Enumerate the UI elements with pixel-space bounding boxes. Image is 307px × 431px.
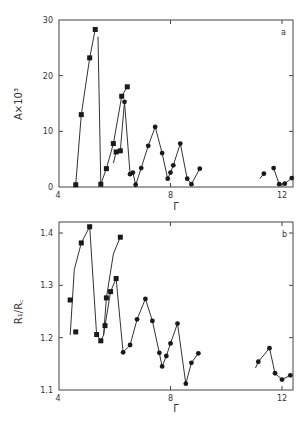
data-point-square [118, 235, 123, 240]
data-point-square [87, 224, 92, 229]
data-point-square [104, 295, 109, 300]
data-point-square [111, 141, 116, 146]
data-point-circle [197, 166, 202, 171]
data-point-square [108, 289, 113, 294]
panel-a-x-axis-label: Γ [173, 201, 179, 212]
panel-b-label: b [282, 230, 287, 239]
data-point-square [73, 329, 78, 334]
data-point-circle [261, 171, 266, 176]
panel-a-ticks: 48120102030 [43, 16, 293, 200]
data-point-square [79, 112, 84, 117]
y-tick-label: 1.4 [40, 229, 53, 238]
x-tick-label: 12 [277, 191, 287, 200]
data-point-circle [288, 373, 293, 378]
data-point-square [68, 297, 73, 302]
data-point-circle [175, 321, 180, 326]
data-point-circle [271, 166, 276, 171]
data-point-circle [164, 354, 169, 359]
data-point-circle [165, 176, 170, 181]
panel-b-frame [59, 222, 293, 390]
panel-a-amplitude-plot: 48120102030 a A×10³ Γ [13, 16, 294, 212]
data-point-circle [277, 182, 282, 187]
data-point-circle [150, 319, 155, 324]
data-point-circle [189, 360, 194, 365]
panel-a-label: a [281, 28, 286, 37]
data-point-circle [133, 182, 138, 187]
data-point-circle [178, 141, 183, 146]
data-point-circle [273, 371, 278, 376]
data-point-circle [130, 170, 135, 175]
data-point-circle [289, 176, 294, 181]
data-point-circle [160, 151, 165, 156]
data-point-circle [280, 377, 285, 382]
data-point-square [125, 84, 130, 89]
panel-b-ticks: 48121.11.21.31.4 [40, 222, 293, 403]
data-point-circle [267, 346, 272, 351]
data-point-square [114, 276, 119, 281]
figure: 48120102030 a A×10³ Γ 48121.11.21.31.4 b… [0, 0, 307, 431]
data-point-circle [143, 297, 148, 302]
data-point-circle [121, 350, 126, 355]
panel-b-radius-ratio-plot: 48121.11.21.31.4 b R₁/R꜀ Γ [13, 222, 293, 414]
x-tick-label: 4 [55, 191, 60, 200]
panel-a-y-axis-label: A×10³ [13, 88, 24, 120]
x-tick-label: 8 [168, 394, 173, 403]
panel-a-curves [76, 30, 292, 185]
panel-b-points [68, 224, 293, 386]
data-point-circle [146, 143, 151, 148]
panel-b-x-axis-label: Γ [173, 403, 179, 414]
data-point-circle [128, 343, 133, 348]
data-point-square [87, 55, 92, 60]
data-point-square [73, 182, 78, 187]
data-point-square [104, 166, 109, 171]
data-point-circle [168, 170, 173, 175]
panel-a-frame [59, 20, 293, 187]
x-tick-label: 8 [168, 191, 173, 200]
data-point-circle [196, 351, 201, 356]
data-point-circle [189, 182, 194, 187]
data-point-square [98, 338, 103, 343]
data-point-circle [153, 124, 158, 129]
data-point-square [93, 27, 98, 32]
data-point-circle [282, 181, 287, 186]
data-point-circle [256, 359, 261, 364]
data-point-square [102, 323, 107, 328]
data-point-circle [122, 99, 127, 104]
data-point-square [118, 148, 123, 153]
data-point-square [119, 94, 124, 99]
y-tick-label: 10 [43, 127, 53, 136]
data-point-circle [135, 317, 140, 322]
data-point-circle [183, 381, 188, 386]
y-tick-label: 0 [48, 183, 53, 192]
y-tick-label: 1.3 [40, 281, 53, 290]
data-point-circle [168, 341, 173, 346]
data-point-circle [171, 163, 176, 168]
data-point-circle [185, 176, 190, 181]
data-point-circle [160, 364, 165, 369]
x-tick-label: 4 [55, 394, 60, 403]
data-point-circle [157, 350, 162, 355]
y-tick-label: 20 [43, 72, 53, 81]
data-point-square [79, 240, 84, 245]
data-point-circle [139, 166, 144, 171]
data-point-square [98, 182, 103, 187]
y-tick-label: 1.2 [40, 334, 53, 343]
x-tick-label: 12 [277, 394, 287, 403]
panel-b-y-axis-label: R₁/R꜀ [13, 299, 24, 324]
y-tick-label: 30 [43, 16, 53, 25]
data-point-square [94, 332, 99, 337]
y-tick-label: 1.1 [40, 386, 53, 395]
